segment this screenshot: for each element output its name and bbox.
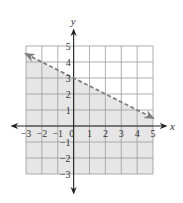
y-tick-label: 4 — [66, 57, 71, 68]
x-tick-label: 2 — [103, 128, 108, 139]
x-axis-label: x — [169, 120, 175, 132]
y-tick-label: 2 — [66, 89, 71, 100]
y-tick-label: −3 — [60, 169, 71, 180]
x-tick-label: −3 — [21, 128, 32, 139]
y-tick-label: 3 — [66, 73, 71, 84]
y-tick-label: 1 — [66, 105, 71, 116]
x-tick-label: 4 — [135, 128, 140, 139]
x-tick-label: 5 — [151, 128, 156, 139]
graph: xy−3−2−101234554321−1−2−3 — [0, 0, 183, 203]
inequality-plot: xy−3−2−101234554321−1−2−3 — [0, 0, 183, 203]
y-tick-label: 5 — [66, 41, 71, 52]
x-tick-label: 1 — [87, 128, 92, 139]
y-axis-label: y — [70, 15, 76, 27]
y-tick-label: −2 — [60, 153, 71, 164]
y-tick-label: −1 — [60, 137, 71, 148]
x-tick-label: 3 — [119, 128, 124, 139]
x-tick-label: −2 — [37, 128, 48, 139]
